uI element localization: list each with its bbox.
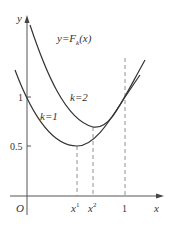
function-diagram: y x O 1 0.5 x1 x2 1 y=Fk(x) k=2 k=1 bbox=[0, 0, 174, 231]
x-axis-arrow-icon bbox=[156, 194, 164, 199]
curve-label-k2: k=2 bbox=[70, 91, 88, 103]
origin-label: O bbox=[16, 202, 24, 214]
axes bbox=[10, 20, 160, 215]
y-axis-label: y bbox=[16, 12, 22, 24]
curve-label-k1: k=1 bbox=[40, 110, 58, 122]
x-axis-label: x bbox=[153, 202, 159, 214]
guide-lines bbox=[77, 58, 125, 196]
x-tick-label-x1: x1 bbox=[70, 201, 80, 214]
x-tick-label-one: 1 bbox=[122, 203, 127, 214]
x-tick-label-x2: x2 bbox=[87, 201, 97, 214]
curve-k1 bbox=[15, 70, 140, 146]
y-tick-label-1: 1 bbox=[18, 92, 23, 103]
y-tick-label-0.5: 0.5 bbox=[10, 141, 23, 152]
function-title: y=Fk(x) bbox=[56, 32, 92, 47]
y-axis-arrow-icon bbox=[25, 15, 30, 23]
